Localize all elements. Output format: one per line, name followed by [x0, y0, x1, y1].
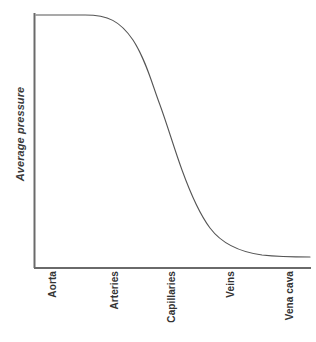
pressure-curve — [36, 15, 310, 257]
chart-canvas — [0, 0, 316, 342]
pressure-curve-figure: Average pressure Aorta Arteries Capillar… — [0, 0, 316, 342]
